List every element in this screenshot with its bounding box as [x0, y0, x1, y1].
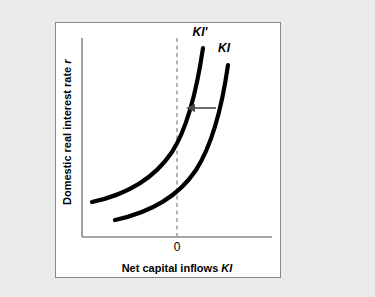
figure-root: Domestic real interest rate r Net capita… — [0, 0, 375, 297]
figure-panel — [55, 22, 281, 278]
